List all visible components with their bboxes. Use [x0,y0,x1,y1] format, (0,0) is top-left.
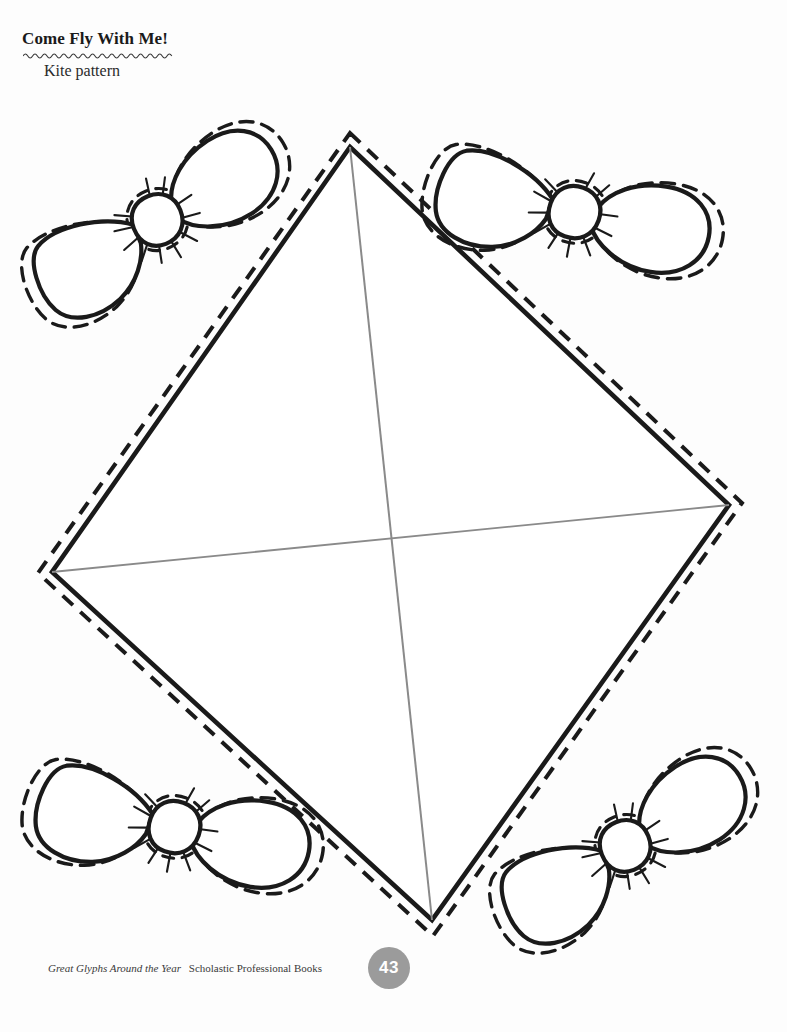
page-header: Come Fly With Me! Kite pattern [22,30,442,80]
bow-bottom-left [9,717,336,946]
page-subtitle: Kite pattern [44,62,442,80]
pattern-page: Come Fly With Me! Kite pattern [0,0,787,1032]
footer-publisher: Scholastic Professional Books [189,962,322,974]
bow-top-left [0,108,319,341]
vertical-spar [350,147,432,920]
wavy-rule-icon [23,51,175,59]
page-footer: Great Glyphs Around the Year Scholastic … [48,962,322,974]
kite-cut-line [38,133,742,936]
page-number-badge: 43 [368,947,410,989]
bow-bottom-right [466,734,787,967]
kite-spars [52,147,729,920]
kite-body [52,147,729,920]
bow-top-right [409,102,736,331]
kite-pattern-artwork [0,0,787,1032]
page-title: Come Fly With Me! [22,30,442,49]
horizontal-spar [52,505,729,572]
footer-book-title: Great Glyphs Around the Year [48,962,181,974]
